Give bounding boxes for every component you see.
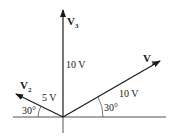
label-v3: V3 [67, 15, 79, 30]
magnitude-v1: 10 V [119, 88, 139, 99]
angle-arc-v2 [38, 106, 41, 117]
phasor-diagram: V3 10 V V1 10 V 30° V2 5 V 30° [0, 0, 176, 139]
magnitude-v2: 5 V [42, 92, 57, 103]
magnitude-v3: 10 V [66, 59, 86, 70]
angle-v2: 30° [22, 105, 36, 116]
label-v2: V2 [20, 79, 32, 94]
angle-v1: 30° [104, 102, 118, 113]
angle-arc-v1 [98, 97, 103, 117]
label-v1: V1 [143, 52, 155, 67]
